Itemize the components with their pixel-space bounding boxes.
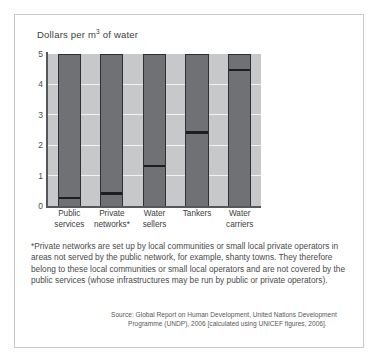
y-tick-label: 0 <box>38 201 43 211</box>
source-line-1: Source: Global Report on Human Developme… <box>111 310 351 319</box>
bar-value-marker <box>59 197 80 199</box>
bar <box>143 54 166 206</box>
bar-value-marker <box>144 165 165 167</box>
plot-area <box>48 54 261 206</box>
x-axis-category-labels: PublicservicesPrivatenetworks*Waterselle… <box>48 209 261 235</box>
category-label-line: networks* <box>91 220 134 231</box>
category-label: Tankers <box>176 209 219 230</box>
category-label: Watersellers <box>133 209 176 230</box>
y-tick-label: 4 <box>38 79 43 89</box>
category-label-line: Private <box>91 209 134 220</box>
category-label-line: sellers <box>133 220 176 231</box>
y-tick-label: 5 <box>38 49 43 59</box>
bar <box>228 54 251 206</box>
bar <box>58 54 81 206</box>
footnote: *Private networks are set up by local co… <box>31 241 349 287</box>
y-axis-tick-labels: 012345 <box>31 54 45 206</box>
figure-container: Dollars per m3 of water 012345 Publicser… <box>14 14 364 348</box>
category-label-line: services <box>48 220 91 231</box>
category-label: Publicservices <box>48 209 91 230</box>
bar <box>185 54 208 206</box>
bar-value-marker <box>101 192 122 194</box>
chart-title: Dollars per m3 of water <box>37 29 138 40</box>
bar-value-marker <box>229 69 250 71</box>
category-label: Watercarriers <box>218 209 261 230</box>
category-label-line: Public <box>48 209 91 220</box>
category-label-line <box>176 220 219 231</box>
category-label-line: Water <box>133 209 176 220</box>
bar <box>100 54 123 206</box>
chart-title-prefix: Dollars per m <box>37 29 96 40</box>
source-line-2: Programme (UNDP), 2006 [calculated using… <box>111 319 351 328</box>
category-label-line: Water <box>218 209 261 220</box>
chart-title-suffix: of water <box>100 29 138 40</box>
x-axis-line <box>46 206 261 208</box>
category-label-line: Tankers <box>176 209 219 220</box>
category-label: Privatenetworks* <box>91 209 134 230</box>
y-tick-label: 3 <box>38 110 43 120</box>
y-tick-label: 1 <box>38 171 43 181</box>
bar-chart: 012345 <box>31 54 261 206</box>
source-citation: Source: Global Report on Human Developme… <box>111 310 351 328</box>
category-label-line: carriers <box>218 220 261 231</box>
bar-value-marker <box>186 131 207 133</box>
y-tick-label: 2 <box>38 140 43 150</box>
